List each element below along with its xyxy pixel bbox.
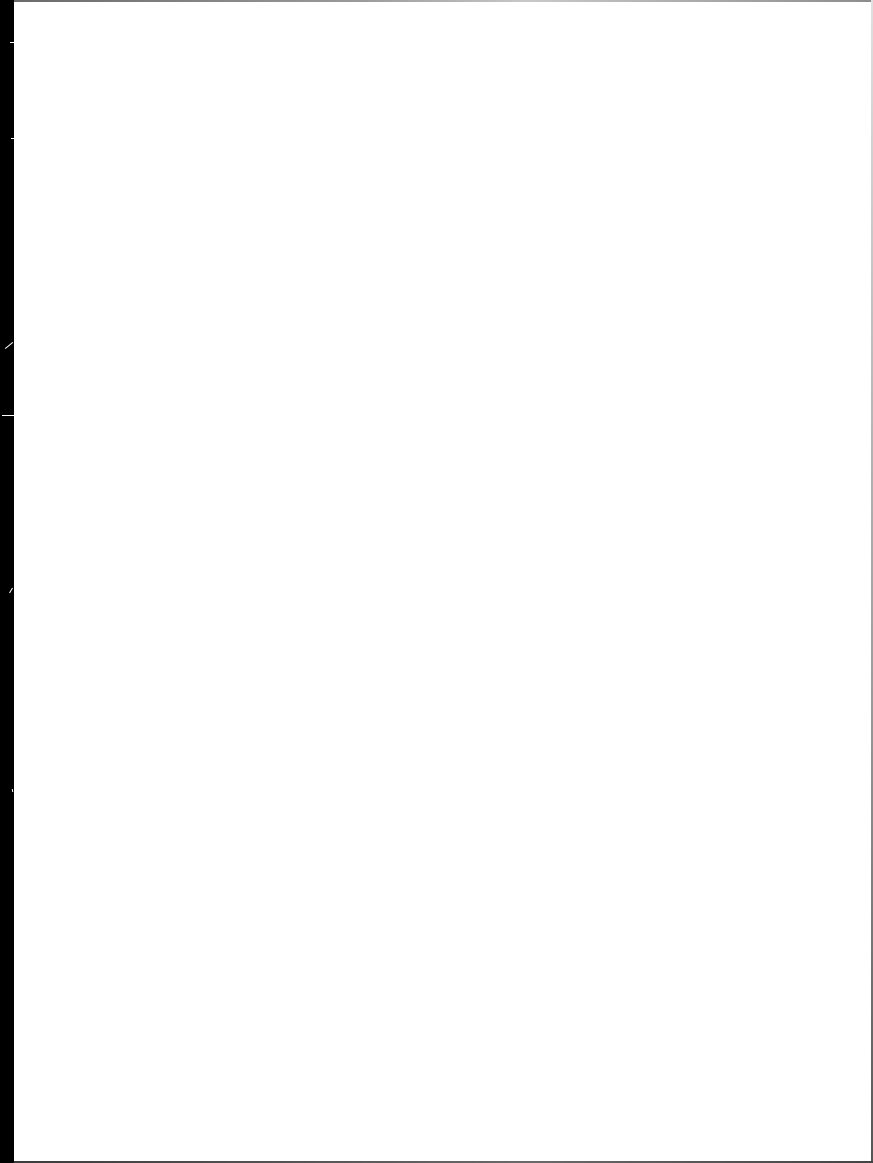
scan-artifact xyxy=(5,342,13,349)
scan-artifact xyxy=(9,588,13,594)
scanner-left-edge xyxy=(0,0,14,1163)
scan-artifact xyxy=(2,415,14,416)
page-body xyxy=(14,2,871,1161)
scanned-page xyxy=(0,0,873,1163)
